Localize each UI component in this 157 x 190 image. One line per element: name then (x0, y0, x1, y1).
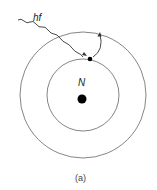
photon-arrowhead (82, 52, 87, 56)
nucleus-label: N (78, 78, 85, 88)
transition-arc (93, 34, 101, 57)
caption: (a) (75, 174, 86, 183)
photon-wave (18, 19, 83, 57)
photon-label: hf (33, 13, 41, 23)
electron (88, 57, 93, 62)
nucleus (78, 95, 87, 104)
atom-diagram (0, 0, 157, 190)
